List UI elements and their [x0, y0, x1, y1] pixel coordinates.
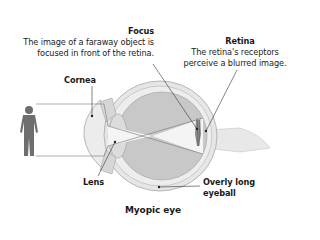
diagram-title: Myopic eye	[113, 205, 193, 215]
focus-heading: Focus	[124, 26, 154, 36]
eyeball-label-line2: eyeball	[203, 188, 236, 198]
focus-description-line1: The image of a faraway object is	[20, 37, 154, 47]
human-figure-icon	[20, 106, 38, 156]
lens-label: Lens	[83, 177, 104, 187]
retina-description-line1: The retina's receptors	[180, 47, 290, 57]
retina-heading: Retina	[210, 36, 270, 46]
focus-description-line2: focused in front of the retina.	[20, 48, 154, 58]
eyeball-label-line1: Overly long	[203, 177, 255, 187]
cornea-label: Cornea	[64, 75, 96, 85]
retina-description-line2: perceive a blurred image.	[180, 58, 290, 68]
